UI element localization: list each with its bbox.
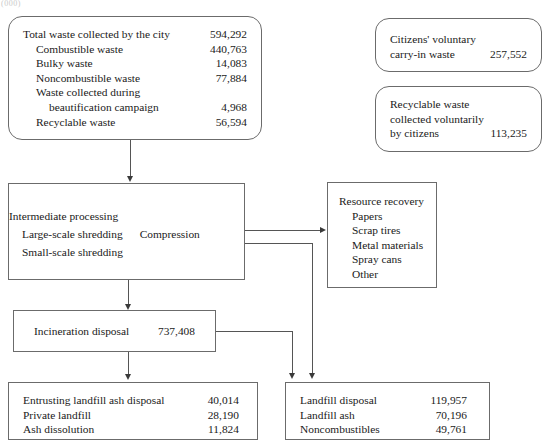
- campaign-value: 4,968: [221, 100, 247, 115]
- recyclable-voluntary-line1: Recyclable waste: [390, 97, 527, 112]
- diagram-canvas: (000) Total waste collected by the city …: [0, 0, 550, 444]
- private-landfill-value: 28,190: [208, 408, 239, 423]
- arrowhead-incineration-to-ash-disposal: [125, 374, 131, 380]
- carry-in-line1: Citizens' voluntary: [390, 32, 527, 47]
- connector-incineration-to-landfill-vertical: [292, 331, 293, 374]
- campaign-label-line1: Waste collected during: [23, 85, 247, 100]
- total-waste-title: Total waste collected by the city: [23, 27, 170, 42]
- resource-item-spray-cans: Spray cans: [339, 252, 436, 267]
- recyclable-voluntary-line3: by citizens: [390, 126, 439, 141]
- bulky-waste-value: 14,083: [216, 56, 247, 71]
- arrowhead-intermediate-to-resource: [320, 227, 326, 233]
- table-row: Bulky waste 14,083: [23, 56, 247, 71]
- resource-item-other: Other: [339, 267, 436, 282]
- table-row: beautification campaign 4,968: [23, 100, 247, 115]
- total-waste-value: 594,292: [210, 27, 247, 42]
- intermediate-item-compression: Compression: [127, 227, 200, 242]
- private-landfill-label: Private landfill: [23, 408, 91, 423]
- box-total-waste: Total waste collected by the city 594,29…: [8, 16, 262, 140]
- intermediate-inner: Intermediate processing Large-scale shre…: [9, 206, 230, 260]
- table-row: Combustible waste 440,763: [23, 42, 247, 57]
- box-citizens-carry-in: Citizens' voluntary carry-in waste 257,5…: [375, 18, 542, 72]
- table-row: Noncombustibles 49,761: [300, 422, 467, 437]
- arrowhead-incineration-to-landfill: [289, 373, 295, 379]
- recyclable-voluntary-rows: Recyclable waste collected voluntarily b…: [376, 87, 541, 141]
- landfill-disposal-value: 119,957: [430, 393, 467, 408]
- recyclable-waste-value: 56,594: [216, 115, 247, 130]
- box-intermediate-processing: Intermediate processing Large-scale shre…: [8, 183, 245, 280]
- noncombustible-waste-label: Noncombustible waste: [23, 71, 140, 86]
- recyclable-voluntary-line2: collected voluntarily: [390, 112, 527, 127]
- intermediate-rows: Intermediate processing Large-scale shre…: [9, 206, 244, 260]
- total-waste-rows: Total waste collected by the city 594,29…: [9, 17, 261, 129]
- combustible-waste-label: Combustible waste: [23, 42, 123, 57]
- ash-disposal-rows: Entrusting landfill ash disposal 40,014 …: [9, 383, 257, 437]
- box-incineration-disposal: Incineration disposal 737,408: [13, 310, 216, 352]
- recyclable-waste-label: Recyclable waste: [23, 115, 115, 130]
- resource-item-papers: Papers: [339, 209, 436, 224]
- box-landfill-disposal: Landfill disposal 119,957 Landfill ash 7…: [285, 382, 490, 440]
- box-resource-recovery: Resource recovery Papers Scrap tires Met…: [327, 182, 437, 288]
- table-row: Landfill disposal 119,957: [300, 393, 467, 408]
- table-row: Private landfill 28,190: [23, 408, 239, 423]
- incineration-label: Incineration disposal: [34, 324, 129, 339]
- corner-note: (000): [1, 0, 21, 8]
- landfill-ash-value: 70,196: [436, 408, 467, 423]
- box-recyclable-voluntary: Recyclable waste collected voluntarily b…: [375, 86, 542, 152]
- table-row: Incineration disposal 737,408: [34, 324, 195, 339]
- connector-incineration-to-landfill-horizontal: [216, 331, 293, 332]
- recyclable-voluntary-value: 113,235: [490, 126, 527, 141]
- table-row: Ash dissolution 11,824: [23, 422, 239, 437]
- combustible-waste-value: 440,763: [210, 42, 247, 57]
- ash-dissolution-label: Ash dissolution: [23, 422, 94, 437]
- incineration-rows: Incineration disposal 737,408: [14, 324, 215, 339]
- noncombustibles-label: Noncombustibles: [300, 422, 380, 437]
- noncombustibles-value: 49,761: [436, 422, 467, 437]
- incineration-value: 737,408: [158, 324, 195, 339]
- entrusting-landfill-ash-disposal-label: Entrusting landfill ash disposal: [23, 393, 164, 408]
- ash-dissolution-value: 11,824: [208, 422, 239, 437]
- connector-intermediate-to-resource: [245, 230, 320, 231]
- resource-recovery-rows: Resource recovery Papers Scrap tires Met…: [328, 183, 436, 282]
- intermediate-item-large-scale-shredding: Large-scale shredding: [9, 227, 123, 242]
- arrowhead-total-to-intermediate: [127, 176, 133, 182]
- table-row: carry-in waste 257,552: [390, 47, 527, 62]
- table-row: by citizens 113,235: [390, 126, 527, 141]
- table-row: Entrusting landfill ash disposal 40,014: [23, 393, 239, 408]
- table-row: Landfill ash 70,196: [300, 408, 467, 423]
- connector-intermediate-to-incineration: [128, 280, 129, 305]
- table-row: Noncombustible waste 77,884: [23, 71, 247, 86]
- connector-total-to-intermediate: [130, 140, 131, 177]
- carry-in-rows: Citizens' voluntary carry-in waste 257,5…: [376, 19, 541, 61]
- carry-in-line2: carry-in waste: [390, 47, 455, 62]
- landfill-ash-label: Landfill ash: [300, 408, 355, 423]
- connector-incineration-to-ash-disposal: [128, 352, 129, 375]
- entrusting-landfill-ash-disposal-value: 40,014: [208, 393, 239, 408]
- box-ash-disposal: Entrusting landfill ash disposal 40,014 …: [8, 382, 258, 440]
- carry-in-value: 257,552: [490, 47, 527, 62]
- landfill-disposal-label: Landfill disposal: [300, 393, 377, 408]
- noncombustible-waste-value: 77,884: [216, 71, 247, 86]
- resource-recovery-title: Resource recovery: [339, 194, 436, 209]
- resource-item-metal-materials: Metal materials: [339, 238, 436, 253]
- campaign-label-line2: beautification campaign: [23, 100, 159, 115]
- table-row: Total waste collected by the city 594,29…: [23, 27, 247, 42]
- landfill-disposal-rows: Landfill disposal 119,957 Landfill ash 7…: [286, 383, 489, 437]
- intermediate-title: Intermediate processing: [9, 209, 118, 224]
- arrowhead-intermediate-to-landfill: [309, 373, 315, 379]
- table-row: Recyclable waste 56,594: [23, 115, 247, 130]
- connector-intermediate-to-landfill-vertical: [312, 243, 313, 374]
- resource-item-scrap-tires: Scrap tires: [339, 223, 436, 238]
- bulky-waste-label: Bulky waste: [23, 56, 93, 71]
- intermediate-item-small-scale-shredding: Small-scale shredding: [9, 245, 123, 260]
- connector-intermediate-to-landfill-horizontal: [245, 243, 313, 244]
